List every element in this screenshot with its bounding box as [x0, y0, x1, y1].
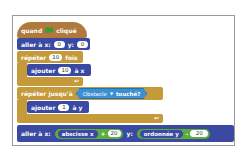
when-flag-clicked-block[interactable]: quand cliqué: [17, 22, 87, 38]
subtract-value-input[interactable]: 20: [190, 130, 208, 137]
repeat-label: répéter: [21, 54, 46, 61]
repeat-until-block[interactable]: répéter jusqu'à Obstacle ▼ touché?: [17, 87, 163, 100]
touching-label: touché?: [116, 91, 140, 97]
repeat-until-foot: ↩: [17, 114, 163, 123]
change-x-input[interactable]: 10: [58, 67, 71, 74]
loop-arrow-icon: ↩: [154, 114, 159, 121]
goto-label: aller à x:: [21, 130, 51, 137]
to-x-label: à x: [74, 67, 84, 74]
green-flag-icon: [45, 27, 53, 33]
plus-label: +: [101, 130, 106, 137]
touching-target-dropdown[interactable]: Obstacle: [83, 91, 107, 97]
change-y-block[interactable]: ajouter 1 à y: [27, 101, 89, 113]
change-x-block[interactable]: ajouter 10 à x: [27, 64, 91, 76]
x-position-reporter[interactable]: abscisse x: [57, 129, 99, 139]
repeat-block[interactable]: répéter 10 fois: [17, 51, 83, 63]
touching-condition[interactable]: Obstacle ▼ touché?: [76, 88, 148, 99]
y-position-reporter[interactable]: ordonnée y: [139, 129, 184, 139]
times-label: fois: [65, 54, 77, 61]
subtract-operator[interactable]: ordonnée y - 20: [137, 129, 211, 139]
repeat-until-arm: [17, 100, 27, 115]
y-label: y:: [68, 41, 74, 48]
repeat-until-label: répéter jusqu'à: [21, 90, 73, 97]
when-label: quand: [21, 27, 42, 34]
change-label: ajouter: [31, 67, 55, 74]
goto-label: aller à x:: [21, 41, 51, 48]
loop-arrow-icon: ↩: [74, 77, 79, 84]
repeat-block-foot: ↩: [17, 77, 83, 86]
repeat-count-input[interactable]: 10: [49, 54, 62, 61]
goto-xy-expression-block[interactable]: aller à x: abscisse x + 20 y: ordonnée y…: [17, 125, 234, 142]
goto-xy-block[interactable]: aller à x: 0 y: 0: [17, 38, 90, 50]
change-label: ajouter: [31, 104, 55, 111]
x-input[interactable]: 0: [54, 41, 65, 48]
add-operator[interactable]: abscisse x + 20: [55, 129, 123, 139]
clicked-label: cliqué: [56, 27, 76, 34]
to-y-label: à y: [72, 104, 82, 111]
add-value-input[interactable]: 20: [108, 130, 121, 137]
y-input[interactable]: 0: [77, 41, 88, 48]
dropdown-arrow-icon: ▼: [110, 91, 113, 96]
change-y-input[interactable]: 1: [58, 104, 69, 111]
minus-label: -: [186, 130, 189, 137]
y-label: y:: [127, 130, 133, 137]
